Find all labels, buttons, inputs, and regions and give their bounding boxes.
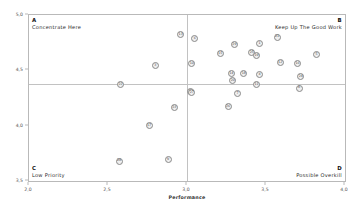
data-point-label: 29: [232, 43, 236, 46]
data-point-label: 21: [275, 35, 279, 38]
data-point-label: 18: [242, 72, 246, 75]
data-point-label: 16: [295, 62, 299, 65]
quadrant-text-b: Keep Up The Good Work: [275, 24, 342, 30]
y-tick-label: 4,0: [16, 122, 23, 127]
data-point[interactable]: 21: [274, 34, 281, 41]
quadrant-text-a: Concentrate Here: [32, 24, 81, 30]
data-point-label: 28: [117, 159, 121, 162]
plot-area: A Concentrate Here B Keep Up The Good Wo…: [28, 14, 346, 182]
x-tick-mark: [107, 182, 108, 185]
chart-root: Importance 5,04,54,03,5 Performance 2,02…: [0, 0, 351, 212]
data-point[interactable]: 24: [297, 73, 304, 80]
quadrant-letter-c: C: [32, 165, 65, 172]
x-tick-label: 2,5: [103, 187, 110, 192]
quadrant-text-d: Possible Overkill: [296, 172, 342, 178]
data-point[interactable]: 19: [253, 52, 260, 59]
data-point-label: 5: [315, 53, 317, 56]
data-point-label: 13: [179, 33, 183, 36]
x-tick-label: 2,0: [24, 187, 31, 192]
data-point-label: 6: [194, 37, 196, 40]
data-point[interactable]: 13: [177, 31, 184, 38]
data-point-label: 1: [259, 42, 261, 45]
data-point-label: 4: [259, 73, 261, 76]
data-point-label: 24: [299, 75, 303, 78]
data-point[interactable]: 3: [152, 62, 159, 69]
data-point-label: 11: [254, 83, 258, 86]
data-point-label: 22: [119, 83, 123, 86]
data-point[interactable]: 6: [191, 35, 198, 42]
y-axis: Importance 5,04,54,03,5: [0, 14, 28, 182]
data-point[interactable]: 26: [225, 103, 232, 110]
data-point-label: 14: [229, 72, 233, 75]
x-tick-mark: [265, 182, 266, 185]
data-point[interactable]: 22: [117, 81, 124, 88]
quadrant-letter-a: A: [32, 17, 81, 24]
x-axis-title: Performance: [169, 195, 206, 200]
data-point-label: 26: [226, 105, 230, 108]
x-tick-mark: [186, 182, 187, 185]
data-point-label: 27: [190, 91, 194, 94]
data-point-label: 23: [172, 106, 176, 109]
data-point[interactable]: 12: [277, 59, 284, 66]
data-point-label: 12: [278, 61, 282, 64]
data-point[interactable]: 29: [231, 41, 238, 48]
data-point-label: 8: [298, 86, 300, 89]
data-point-label: 17: [147, 124, 151, 127]
data-point[interactable]: 16: [294, 60, 301, 67]
data-point[interactable]: 10: [188, 60, 195, 67]
data-point[interactable]: 5: [313, 51, 320, 58]
data-point[interactable]: 9: [165, 156, 172, 163]
x-axis: Performance 2,02,53,03,54,0: [28, 182, 346, 212]
vertical-crosshair-line: [187, 15, 188, 181]
y-tick-label: 5,0: [16, 12, 23, 17]
data-point-label: 19: [254, 54, 258, 57]
quadrant-letter-b: B: [275, 17, 342, 24]
quadrant-label-b: B Keep Up The Good Work: [275, 17, 342, 31]
data-point[interactable]: 17: [146, 122, 153, 129]
y-tick-label: 3,5: [16, 178, 23, 183]
data-point-label: 7: [236, 92, 238, 95]
data-point[interactable]: 18: [240, 70, 247, 77]
data-point[interactable]: 23: [171, 104, 178, 111]
y-tick-label: 4,5: [16, 67, 23, 72]
data-point-label: 10: [190, 62, 194, 65]
data-point[interactable]: 27: [188, 89, 195, 96]
data-point[interactable]: 15: [217, 50, 224, 57]
quadrant-text-c: Low Priority: [32, 172, 65, 178]
data-point-label: 20: [231, 79, 235, 82]
data-point[interactable]: 4: [256, 71, 263, 78]
data-point-label: 15: [218, 52, 222, 55]
data-point[interactable]: 28: [116, 158, 123, 165]
x-tick-mark: [28, 182, 29, 185]
quadrant-label-c: C Low Priority: [32, 165, 65, 179]
data-point-label: 3: [154, 64, 156, 67]
quadrant-label-a: A Concentrate Here: [32, 17, 81, 31]
x-tick-mark: [344, 182, 345, 185]
x-tick-label: 3,5: [261, 187, 268, 192]
x-tick-label: 3,0: [182, 187, 189, 192]
data-point-label: 9: [167, 158, 169, 161]
data-point[interactable]: 11: [253, 81, 260, 88]
quadrant-letter-d: D: [296, 165, 342, 172]
data-point[interactable]: 7: [234, 90, 241, 97]
data-point[interactable]: 8: [296, 85, 303, 92]
data-point[interactable]: 1: [256, 40, 263, 47]
x-tick-label: 4,0: [340, 187, 347, 192]
quadrant-label-d: D Possible Overkill: [296, 165, 342, 179]
